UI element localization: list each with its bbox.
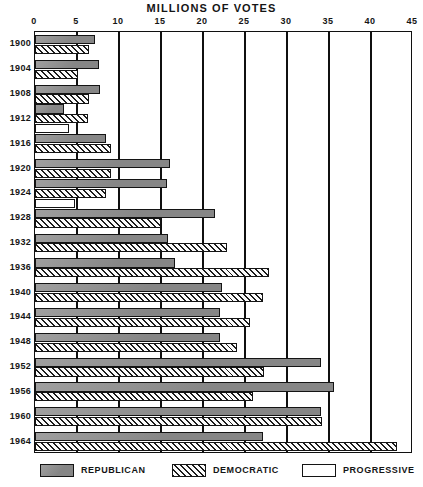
- bar-republican: [35, 358, 321, 367]
- legend-entry: DEMOCRATIC: [172, 462, 279, 478]
- bar-democratic: [35, 293, 263, 302]
- legend-entry: REPUBLICAN: [40, 462, 146, 478]
- bar-republican: [35, 432, 263, 441]
- legend-swatch-republican: [40, 464, 74, 477]
- bar-democratic: [35, 218, 161, 227]
- legend-label: REPUBLICAN: [81, 465, 146, 475]
- bar-republican: [35, 159, 170, 168]
- x-tick-label: 5: [73, 16, 78, 26]
- bar-republican: [35, 283, 222, 292]
- year-label: 1940: [0, 287, 31, 297]
- legend-entry: PROGRESSIVE: [302, 462, 415, 478]
- bar-democratic: [35, 243, 227, 252]
- year-label: 1960: [0, 411, 31, 421]
- bar-democratic: [35, 392, 253, 401]
- bar-democratic: [35, 144, 111, 153]
- chart-title: MILLIONS OF VOTES: [0, 2, 423, 14]
- votes-bar-chart: MILLIONS OF VOTES 051015202530354045 190…: [0, 0, 423, 487]
- bar-republican: [35, 234, 168, 243]
- bar-republican: [35, 333, 220, 342]
- x-tick-label: 45: [407, 16, 418, 26]
- year-label: 1936: [0, 262, 31, 272]
- bar-republican: [35, 308, 220, 317]
- year-label: 1916: [0, 138, 31, 148]
- bar-democratic: [35, 343, 237, 352]
- legend-swatch-progressive: [302, 464, 336, 477]
- year-label: 1924: [0, 187, 31, 197]
- legend-label: DEMOCRATIC: [213, 465, 279, 475]
- bar-progressive: [35, 124, 69, 133]
- bar-republican: [35, 60, 99, 69]
- year-label: 1948: [0, 336, 31, 346]
- bar-democratic: [35, 417, 322, 426]
- bar-republican: [35, 179, 167, 188]
- year-label: 1944: [0, 311, 31, 321]
- bar-democratic: [35, 189, 106, 198]
- year-label: 1908: [0, 88, 31, 98]
- bar-republican: [35, 85, 100, 94]
- bar-republican: [35, 209, 215, 218]
- legend-swatch-democratic: [172, 464, 206, 477]
- year-label: 1920: [0, 163, 31, 173]
- x-tick-label: 20: [197, 16, 208, 26]
- bar-republican: [35, 382, 334, 391]
- x-tick-label: 40: [365, 16, 376, 26]
- bar-democratic: [35, 70, 78, 79]
- x-tick-label: 10: [113, 16, 124, 26]
- year-label: 1932: [0, 237, 31, 247]
- legend-label: PROGRESSIVE: [343, 465, 415, 475]
- x-tick-label: 15: [155, 16, 166, 26]
- year-label: 1912: [0, 113, 31, 123]
- bar-progressive: [35, 199, 75, 208]
- chart-legend: REPUBLICANDEMOCRATICPROGRESSIVE: [34, 462, 412, 482]
- bar-democratic: [35, 114, 88, 123]
- x-tick-label: 30: [281, 16, 292, 26]
- year-label: 1928: [0, 212, 31, 222]
- bar-republican: [35, 104, 64, 113]
- bar-democratic: [35, 94, 89, 103]
- bar-republican: [35, 258, 175, 267]
- bar-democratic: [35, 268, 269, 277]
- bar-republican: [35, 35, 95, 44]
- x-tick-label: 0: [31, 16, 36, 26]
- bar-democratic: [35, 169, 111, 178]
- bar-democratic: [35, 318, 250, 327]
- bar-republican: [35, 134, 106, 143]
- year-label: 1904: [0, 63, 31, 73]
- bar-democratic: [35, 442, 397, 451]
- year-label: 1956: [0, 386, 31, 396]
- bar-republican: [35, 407, 321, 416]
- bar-democratic: [35, 367, 264, 376]
- year-label: 1952: [0, 361, 31, 371]
- gridline: [370, 32, 372, 452]
- bar-democratic: [35, 45, 89, 54]
- year-label: 1900: [0, 38, 31, 48]
- year-label: 1964: [0, 436, 31, 446]
- x-tick-label: 25: [239, 16, 250, 26]
- plot-area: [34, 31, 412, 453]
- x-tick-label: 35: [323, 16, 334, 26]
